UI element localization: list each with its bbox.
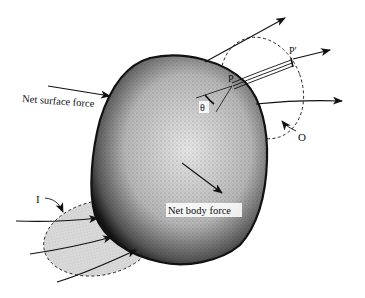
control-volume-diagram: Net surface force θ P P′ O Net body forc…: [0, 0, 365, 298]
outflow-region-pointer: [282, 121, 296, 131]
point-p-prime-label: P′: [289, 45, 297, 56]
theta-label: θ: [200, 102, 205, 113]
point-p-label: P: [228, 73, 234, 84]
inflow-region-pointer: [45, 198, 63, 212]
outflow-arrow-pprime: [293, 50, 330, 59]
inflow-region-label: I: [36, 193, 40, 205]
outflow-arrow-top: [205, 18, 285, 62]
net-surface-force-label: Net surface force: [22, 93, 95, 109]
net-body-force-label: Net body force: [168, 205, 231, 216]
outflow-region-label: O: [298, 131, 306, 143]
outflow-arrow-right: [256, 101, 342, 104]
